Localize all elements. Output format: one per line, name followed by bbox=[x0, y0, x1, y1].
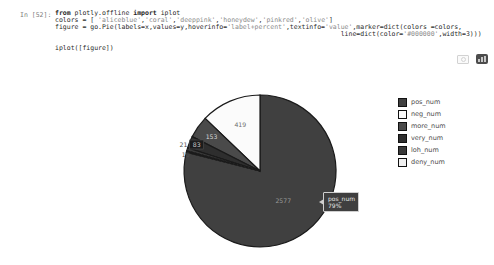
legend-swatch-icon bbox=[398, 98, 407, 107]
code-editor[interactable]: from plotly.offline import iplotcolors =… bbox=[55, 10, 485, 52]
legend-label: pos_num bbox=[411, 99, 440, 106]
plotly-logo-icon[interactable] bbox=[476, 54, 488, 64]
pie-chart: 2577419153832110 bbox=[168, 85, 378, 265]
chart-legend: pos_numneg_nummore_numvery_numloh_numden… bbox=[398, 98, 446, 170]
legend-swatch-icon bbox=[398, 146, 407, 155]
legend-item-deny_num[interactable]: deny_num bbox=[398, 158, 446, 167]
legend-item-pos_num[interactable]: pos_num bbox=[398, 98, 446, 107]
legend-label: very_num bbox=[411, 135, 443, 142]
slice-value-label: 153 bbox=[206, 133, 218, 140]
legend-swatch-icon bbox=[398, 158, 407, 167]
legend-item-loh_num[interactable]: loh_num bbox=[398, 146, 446, 155]
plotly-modebar bbox=[457, 54, 488, 64]
legend-item-very_num[interactable]: very_num bbox=[398, 134, 446, 143]
legend-label: deny_num bbox=[411, 159, 445, 166]
slice-value-label: 83 bbox=[193, 141, 201, 148]
slice-value-label: 419 bbox=[234, 121, 246, 128]
cell-prompt: In [52]: bbox=[20, 11, 51, 19]
tooltip-percent: 79% bbox=[328, 202, 355, 209]
legend-label: neg_num bbox=[411, 111, 441, 118]
legend-item-neg_num[interactable]: neg_num bbox=[398, 110, 446, 119]
legend-swatch-icon bbox=[398, 110, 407, 119]
legend-swatch-icon bbox=[398, 122, 407, 131]
notebook-page: In [52]: from plotly.offline import iplo… bbox=[0, 0, 494, 265]
camera-icon[interactable] bbox=[457, 55, 469, 64]
slice-value-label: 10 bbox=[182, 151, 190, 158]
pie-chart-svg: 2577419153832110 bbox=[168, 85, 378, 265]
slice-value-label: 2577 bbox=[275, 197, 291, 204]
legend-label: more_num bbox=[411, 123, 446, 130]
tooltip-label: pos_num bbox=[328, 195, 355, 202]
legend-label: loh_num bbox=[411, 147, 439, 154]
hover-tooltip: pos_num 79% bbox=[323, 192, 359, 212]
slice-value-label: 21 bbox=[180, 141, 188, 148]
legend-swatch-icon bbox=[398, 134, 407, 143]
legend-item-more_num[interactable]: more_num bbox=[398, 122, 446, 131]
